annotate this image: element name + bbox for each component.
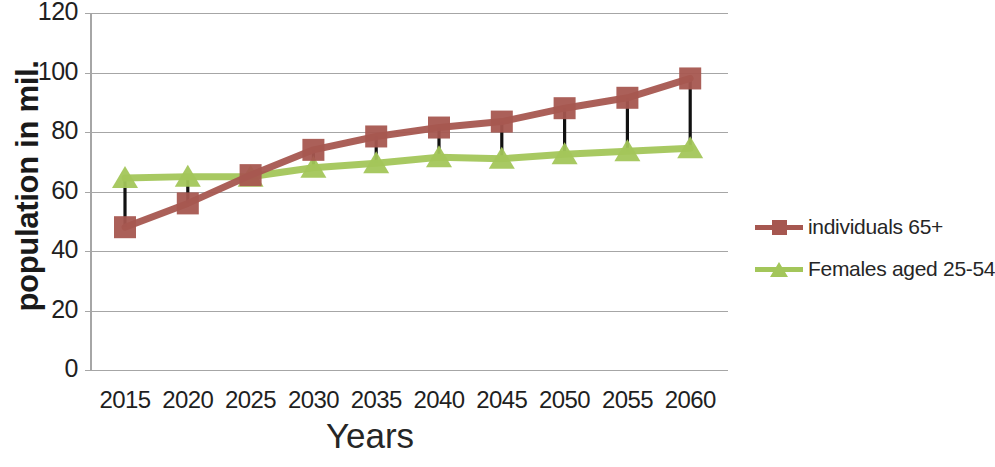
y-tick-label-20: 20 (22, 295, 78, 324)
chart-legend: individuals 65+Females aged 25-54 (755, 206, 963, 290)
legend-key-swatch (755, 258, 803, 280)
data-point-individuals-65-plus-2060 (679, 67, 701, 89)
data-point-individuals-65-plus-2040 (428, 117, 450, 139)
y-tick-label-120: 120 (22, 0, 78, 26)
legend-square-marker-icon (772, 220, 787, 235)
y-tick-label-80: 80 (22, 116, 78, 145)
data-point-individuals-65-plus-2015 (114, 216, 136, 238)
plot-area (91, 13, 728, 370)
y-tick-label-40: 40 (22, 235, 78, 264)
data-point-individuals-65-plus-2020 (177, 192, 199, 214)
y-tick-label-60: 60 (22, 176, 78, 205)
legend-label: Females aged 25-54 (803, 257, 995, 281)
data-point-individuals-65-plus-2025 (240, 164, 262, 186)
legend-triangle-marker-icon (770, 262, 788, 277)
legend-item-females-25-54[interactable]: Females aged 25-54 (755, 248, 963, 290)
data-point-individuals-65-plus-2030 (302, 139, 324, 161)
data-point-individuals-65-plus-2050 (554, 97, 576, 119)
legend-label: individuals 65+ (803, 215, 943, 239)
series-layer (91, 13, 728, 370)
data-point-individuals-65-plus-2035 (365, 125, 387, 147)
x-axis-line (91, 370, 728, 371)
data-point-individuals-65-plus-2055 (616, 87, 638, 109)
y-tick-label-0: 0 (22, 354, 78, 383)
data-point-individuals-65-plus-2045 (491, 111, 513, 133)
legend-key-swatch (755, 216, 803, 238)
series-line-females-25-54 (125, 148, 690, 178)
legend-item-individuals-65-plus[interactable]: individuals 65+ (755, 206, 963, 248)
y-tick-label-100: 100 (22, 57, 78, 86)
x-tick-label-2060: 2060 (645, 386, 735, 414)
x-axis-title: Years (0, 416, 740, 456)
